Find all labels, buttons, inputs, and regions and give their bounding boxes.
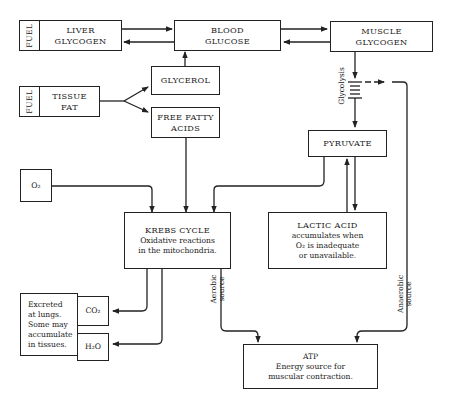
- ffa-label-2: ACIDS: [171, 123, 200, 134]
- atp-line-1: Energy source for: [276, 362, 345, 372]
- muscle-glycogen-node: MUSCLE GLYCOGEN: [330, 21, 433, 52]
- pyruvate-node: PYRUVATE: [308, 130, 387, 157]
- glycerol-node: GLYCEROL: [151, 66, 220, 95]
- co2-node: CO₂: [77, 296, 109, 326]
- blood-glucose-label-1: BLOOD: [211, 25, 244, 36]
- muscle-glycogen-label-1: MUSCLE: [361, 26, 401, 37]
- muscle-glycogen-label-2: GLYCOGEN: [356, 37, 408, 48]
- free-fatty-acids-node: FREE FATTY ACIDS: [151, 107, 220, 138]
- excreted-node: Excreted at lungs. Some may accumulate i…: [20, 293, 78, 356]
- fuel-tag: FUEL: [20, 87, 40, 116]
- krebs-cycle-node: KREBS CYCLE Oxidative reactions in the m…: [124, 212, 231, 269]
- lactic-acid-line-2: O₂ is inadequate: [296, 241, 359, 251]
- atp-title: ATP: [303, 352, 318, 362]
- anaerobic-source-label: Anaerobic source: [397, 269, 413, 319]
- h2o-node: H₂O: [77, 333, 109, 361]
- tissue-fat-label-1: TISSUE: [52, 91, 86, 102]
- liver-glycogen-node: FUEL LIVER GLYCOGEN: [19, 20, 122, 51]
- aerobic-source-label: Aerobic source: [210, 269, 226, 309]
- atp-line-2: muscular contraction.: [268, 372, 353, 382]
- liver-glycogen-label-2: GLYCOGEN: [55, 36, 107, 47]
- h2o-label: H₂O: [85, 342, 101, 352]
- glycolysis-label: Glycolysis: [338, 66, 346, 106]
- lactic-acid-line-1: accumulates when: [292, 231, 364, 241]
- oxygen-label: O₂: [31, 181, 40, 191]
- krebs-cycle-line-2: in the mitochondria.: [138, 246, 216, 256]
- glycerol-label: GLYCEROL: [161, 75, 211, 86]
- lactic-acid-node: LACTIC ACID accumulates when O₂ is inade…: [268, 212, 387, 269]
- blood-glucose-node: BLOOD GLUCOSE: [174, 20, 281, 51]
- atp-node: ATP Energy source for muscular contracti…: [243, 344, 378, 389]
- ffa-label-1: FREE FATTY: [157, 112, 213, 123]
- co2-label: CO₂: [85, 306, 100, 316]
- fuel-tag: FUEL: [20, 21, 40, 50]
- krebs-cycle-line-1: Oxidative reactions: [140, 236, 215, 246]
- krebs-cycle-title: KREBS CYCLE: [145, 225, 210, 236]
- oxygen-node: O₂: [20, 169, 52, 202]
- lactic-acid-line-3: or unavailable.: [299, 251, 356, 261]
- pyruvate-label: PYRUVATE: [323, 138, 372, 149]
- tissue-fat-node: FUEL TISSUE FAT: [19, 86, 100, 117]
- blood-glucose-label-2: GLUCOSE: [205, 36, 250, 47]
- liver-glycogen-label-1: LIVER: [66, 25, 94, 36]
- lactic-acid-title: LACTIC ACID: [297, 220, 357, 231]
- tissue-fat-label-2: FAT: [61, 102, 78, 113]
